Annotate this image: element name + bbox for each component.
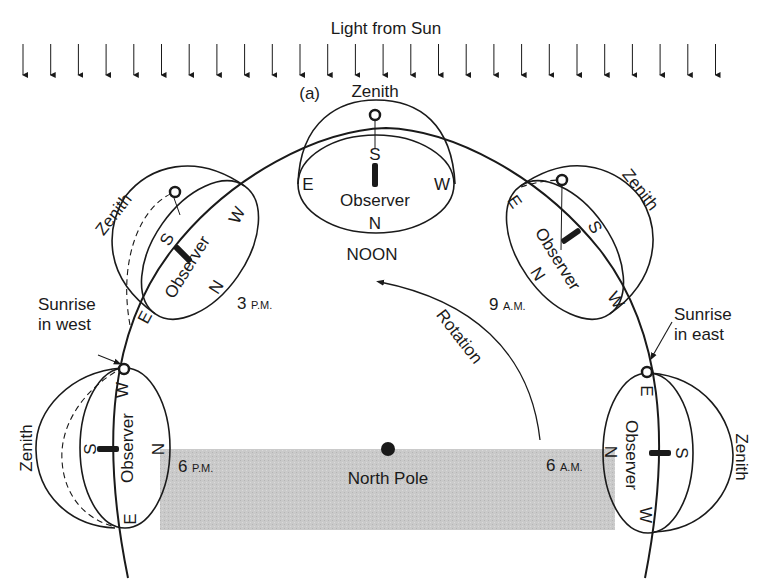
dir-s: S: [81, 443, 100, 454]
dir-w: W: [603, 288, 628, 312]
dir-e: E: [637, 385, 656, 396]
sun-icon: [119, 364, 129, 374]
observer-label: Observer: [340, 191, 410, 210]
dir-n: N: [526, 264, 549, 284]
zenith-label: Zenith: [92, 190, 136, 239]
sun-icon: [370, 110, 380, 120]
north-pole-label: North Pole: [348, 469, 428, 488]
diagram-canvas: Light from Sun Rotation North Pole Zenit…: [0, 0, 772, 583]
time-ampm: P.M.: [192, 462, 213, 474]
dir-w: W: [225, 204, 249, 227]
observer-label: Observer: [118, 413, 137, 483]
dir-w: W: [113, 382, 132, 398]
zenith-label: Zenith: [17, 424, 36, 471]
dir-n: N: [601, 446, 620, 458]
sun-rays-arrow-icons: [23, 44, 716, 75]
time-ampm: A.M.: [503, 300, 526, 312]
dir-e: E: [302, 175, 313, 194]
time-hour: 6: [546, 456, 555, 475]
rotation-label: Rotation: [432, 306, 486, 368]
time-ampm: P.M.: [251, 299, 272, 311]
observer-3pm: Zenith S W Observer N E 3 P.M.: [80, 133, 283, 340]
sunrise-west-arrow-icon: [98, 355, 118, 363]
observer-figure-icon: [372, 163, 378, 187]
sun-icon: [170, 187, 180, 197]
dir-n: N: [369, 214, 381, 233]
zenith-label: Zenith: [618, 165, 662, 214]
dir-w: W: [434, 175, 450, 194]
dir-s: S: [672, 447, 691, 458]
observer-figure-icon: [649, 450, 671, 456]
time-hour: 9: [489, 295, 498, 314]
observer-figure-icon: [560, 227, 581, 245]
sunrise-west-label-1: Sunrise: [38, 295, 96, 314]
dir-n: N: [205, 277, 228, 297]
time-hour: 3: [237, 294, 246, 313]
north-pole-dot-icon: [381, 442, 395, 456]
zenith-label: Zenith: [351, 82, 398, 101]
observer-9am: Zenith E S Observer N W 9 A.M.: [483, 133, 686, 340]
dir-w: W: [636, 507, 655, 523]
sunrise-east-label-1: Sunrise: [674, 305, 732, 324]
sunrise-west-label-2: in west: [38, 315, 91, 334]
panel-label: (a): [299, 84, 320, 103]
sunrise-east-arrow-icon: [652, 322, 672, 357]
dir-n: N: [149, 443, 168, 455]
dir-e: E: [121, 513, 140, 524]
dir-e: E: [134, 308, 156, 327]
sun-icon: [557, 175, 567, 185]
dir-s: S: [369, 145, 380, 164]
observer-label: Observer: [622, 420, 641, 490]
sun-icon: [642, 367, 652, 377]
title-light-from-sun: Light from Sun: [331, 19, 442, 38]
observer-figure-icon: [97, 446, 119, 452]
time-ampm: A.M.: [560, 461, 583, 473]
time-label-noon: NOON: [347, 245, 398, 264]
sunrise-east-label-2: in east: [674, 325, 724, 344]
time-hour: 6: [178, 457, 187, 476]
zenith-label: Zenith: [732, 433, 751, 480]
observer-noon: Zenith (a) S E W Observer N NOON: [298, 82, 455, 264]
